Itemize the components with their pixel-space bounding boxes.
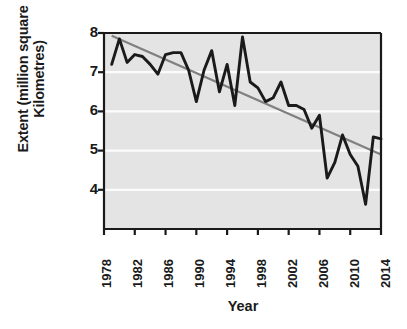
plot-area: [0, 0, 407, 329]
chart-figure: Extent (million square Kilometres) Year …: [0, 0, 407, 329]
plot-background: [104, 33, 381, 229]
